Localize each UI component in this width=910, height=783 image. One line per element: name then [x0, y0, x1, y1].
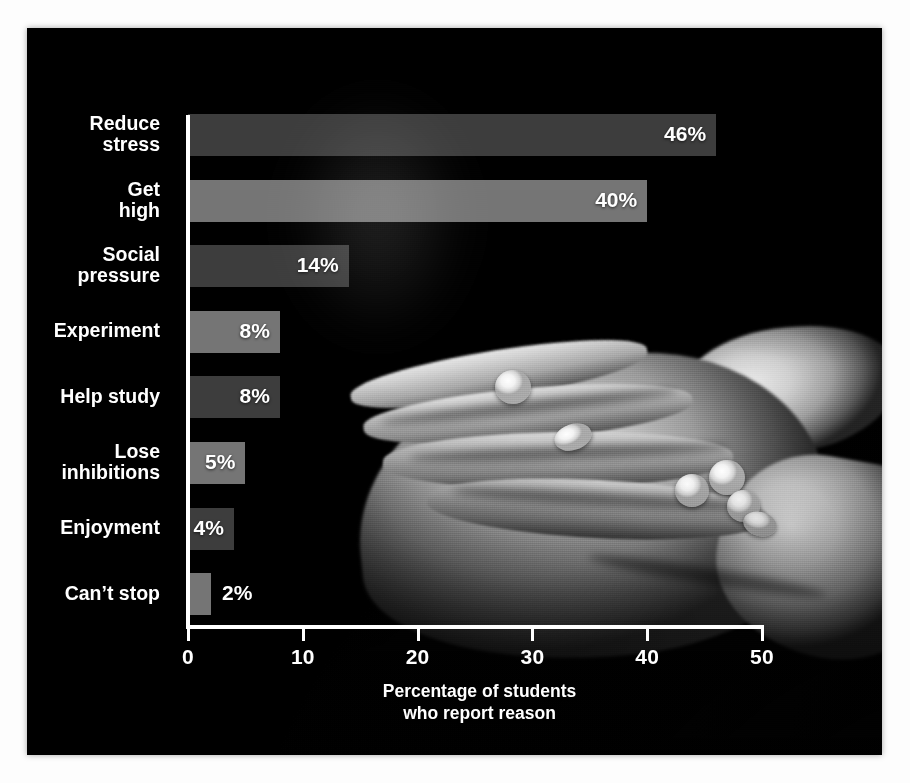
bar-value-label: 14%: [297, 253, 339, 277]
x-tick-label-30: 30: [521, 645, 545, 669]
bar-value-label: 8%: [239, 384, 269, 408]
x-tick-40: [646, 625, 649, 641]
bar-value-label: 2%: [222, 581, 252, 605]
bar-value-label: 8%: [239, 319, 269, 343]
category-label: Help study: [60, 386, 160, 407]
x-tick-label-10: 10: [291, 645, 315, 669]
bar-value-label: 4%: [194, 516, 224, 540]
category-label: Enjoyment: [60, 517, 160, 538]
x-tick-label-0: 0: [182, 645, 194, 669]
x-tick-label-50: 50: [750, 645, 774, 669]
category-label: Lose inhibitions: [61, 441, 160, 483]
category-label: Get high: [119, 179, 160, 221]
bar-value-label: 5%: [205, 450, 235, 474]
category-label: Reduce stress: [90, 113, 160, 155]
x-tick-20: [417, 625, 420, 641]
category-label: Experiment: [54, 320, 160, 341]
category-label: Can’t stop: [65, 583, 160, 604]
figure-page: 01020304050 Reduce stress46%Get high40%S…: [0, 0, 910, 783]
x-axis-line: [186, 625, 764, 629]
x-axis-title: Percentage of students who report reason: [27, 680, 882, 724]
x-tick-30: [531, 625, 534, 641]
bar: [188, 114, 716, 156]
x-tick-label-20: 20: [406, 645, 430, 669]
x-tick-label-40: 40: [635, 645, 659, 669]
x-tick-10: [302, 625, 305, 641]
category-label: Social pressure: [78, 244, 160, 286]
x-tick-0: [187, 625, 190, 641]
background-photograph: 01020304050 Reduce stress46%Get high40%S…: [27, 28, 882, 755]
bar: [188, 180, 647, 222]
bar: [188, 573, 211, 615]
bar-value-label: 40%: [595, 188, 637, 212]
bar-value-label: 46%: [664, 122, 706, 146]
bar-chart: 01020304050 Reduce stress46%Get high40%S…: [27, 28, 882, 755]
x-tick-50: [761, 625, 764, 641]
